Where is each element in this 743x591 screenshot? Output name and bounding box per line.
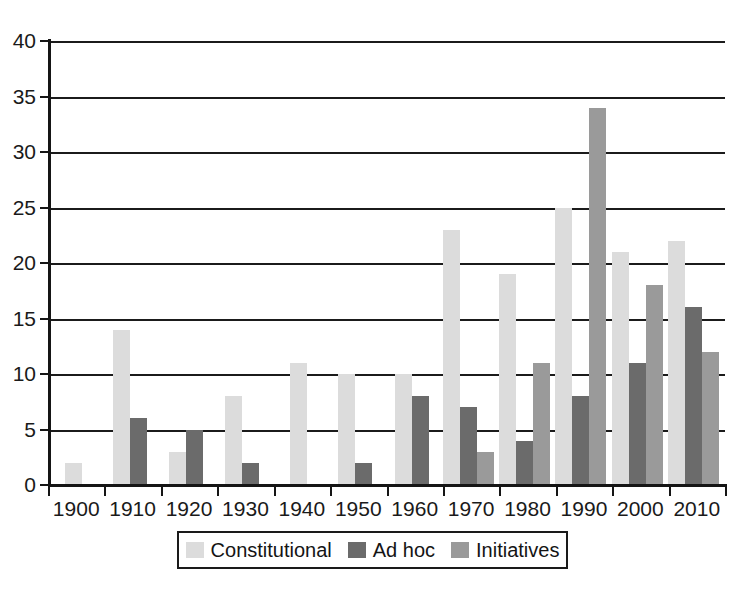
y-axis-tick: [40, 318, 49, 320]
x-axis-tick-label: 1990: [556, 498, 612, 520]
bar: [499, 274, 516, 485]
plot-area: [48, 41, 725, 485]
y-axis-tick: [40, 373, 49, 375]
x-axis-tick: [612, 487, 614, 496]
bar: [242, 463, 259, 485]
bar: [629, 363, 646, 485]
bar: [477, 452, 494, 485]
legend-entry[interactable]: Ad hoc: [348, 540, 435, 560]
bar: [612, 252, 629, 485]
bar: [589, 108, 606, 485]
x-axis-tick-label: 1900: [48, 498, 104, 520]
bar: [395, 374, 412, 485]
bar: [646, 285, 663, 485]
bar-chart: 0510152025303540 19001910192019301940195…: [0, 0, 743, 591]
x-axis-tick-label: 1930: [217, 498, 273, 520]
legend-label: Constitutional: [211, 540, 332, 560]
y-axis-tick: [40, 151, 49, 153]
bar: [186, 430, 203, 486]
legend-label: Ad hoc: [373, 540, 435, 560]
y-axis-tick-label: 5: [0, 419, 36, 440]
y-axis-tick-label: 10: [0, 363, 36, 384]
bar: [290, 363, 307, 485]
legend-label: Initiatives: [476, 540, 559, 560]
chart-legend: ConstitutionalAd hocInitiatives: [177, 531, 568, 569]
bar: [355, 463, 372, 485]
y-axis-tick-label: 35: [0, 86, 36, 107]
x-axis-tick: [274, 487, 276, 496]
x-axis-tick-label: 1920: [161, 498, 217, 520]
bar: [338, 374, 355, 485]
y-axis-tick: [40, 484, 49, 486]
x-axis-tick: [330, 487, 332, 496]
x-axis-tick: [48, 487, 50, 496]
x-axis-tick: [556, 487, 558, 496]
x-axis-tick-label: 1940: [274, 498, 330, 520]
x-axis-tick-label: 1980: [499, 498, 555, 520]
y-axis-tick: [40, 429, 49, 431]
y-axis-tick-label: 40: [0, 30, 36, 51]
x-axis-tick-label: 1960: [387, 498, 443, 520]
legend-swatch-ad-hoc: [348, 542, 366, 558]
bar: [113, 330, 130, 485]
x-axis-tick: [387, 487, 389, 496]
x-axis-tick: [725, 487, 727, 496]
y-axis-tick: [40, 96, 49, 98]
x-axis-tick-label: 2000: [612, 498, 668, 520]
bar: [443, 230, 460, 485]
bar: [516, 441, 533, 485]
bar: [555, 208, 572, 486]
bar: [572, 396, 589, 485]
bar: [412, 396, 429, 485]
y-axis-tick-label: 0: [0, 474, 36, 495]
bar: [460, 407, 477, 485]
bar: [533, 363, 550, 485]
legend-entry[interactable]: Constitutional: [186, 540, 332, 560]
gridline: [48, 41, 725, 43]
y-axis-tick: [40, 262, 49, 264]
x-axis-tick: [161, 487, 163, 496]
gridline: [48, 152, 725, 154]
x-axis-tick: [499, 487, 501, 496]
x-axis-tick: [104, 487, 106, 496]
legend-entry[interactable]: Initiatives: [451, 540, 559, 560]
x-axis-tick: [443, 487, 445, 496]
y-axis-tick-label: 20: [0, 252, 36, 273]
x-axis-tick-label: 1950: [330, 498, 386, 520]
x-axis-tick-label: 2010: [669, 498, 725, 520]
y-axis-tick-label: 25: [0, 197, 36, 218]
y-axis-tick: [40, 207, 49, 209]
bar: [685, 307, 702, 485]
bar: [702, 352, 719, 485]
x-axis-tick-label: 1970: [443, 498, 499, 520]
bar: [130, 418, 147, 485]
gridline: [48, 208, 725, 210]
x-axis-tick-label: 1910: [104, 498, 160, 520]
y-axis-tick-label: 30: [0, 141, 36, 162]
gridline: [48, 97, 725, 99]
bar: [65, 463, 82, 485]
y-axis-tick: [40, 40, 49, 42]
x-axis-tick: [669, 487, 671, 496]
x-axis-tick: [217, 487, 219, 496]
bar: [169, 452, 186, 485]
bar: [668, 241, 685, 485]
legend-swatch-constitutional: [186, 542, 204, 558]
y-axis-tick-label: 15: [0, 308, 36, 329]
legend-swatch-initiatives: [451, 542, 469, 558]
bar: [225, 396, 242, 485]
